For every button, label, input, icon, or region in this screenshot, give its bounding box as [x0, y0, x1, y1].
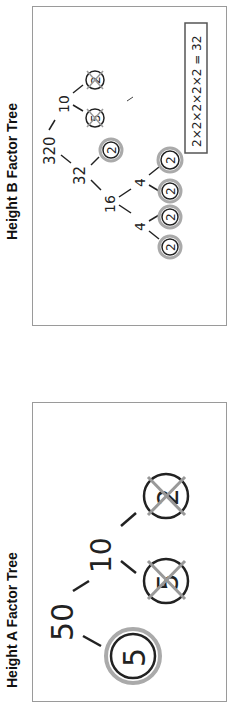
- node-4a: 4: [132, 222, 148, 231]
- leaf-2-4: 2: [164, 156, 178, 164]
- node-10: 10: [56, 95, 72, 113]
- height-a-factor-tree-box: 50 5 10 5 2: [32, 402, 227, 702]
- equation: 2×2×2×2×2 = 32: [190, 36, 204, 147]
- node-50: 50: [45, 603, 80, 641]
- node-32: 32: [71, 166, 89, 185]
- height-b-title: Height B Factor Tree: [4, 103, 20, 240]
- node-320: 320: [41, 136, 59, 165]
- node-2-circled: 2: [105, 146, 119, 154]
- leaf-2-2: 2: [164, 213, 178, 221]
- node-16: 16: [102, 195, 118, 213]
- height-b-factor-tree-box: 320 10 5 2 32 2 16 4: [32, 6, 227, 326]
- node-4b: 4: [132, 178, 148, 187]
- leaf-2-1: 2: [164, 243, 178, 251]
- node-5-circled: 5: [117, 648, 152, 667]
- height-a-title: Height A Factor Tree: [4, 552, 20, 688]
- height-b-tree-drawing: 320 10 5 2 32 2 16 4: [33, 5, 228, 325]
- height-a-tree-drawing: 50 5 10 5 2: [33, 401, 228, 701]
- leaf-2-3: 2: [164, 187, 178, 195]
- node-10: 10: [85, 537, 118, 573]
